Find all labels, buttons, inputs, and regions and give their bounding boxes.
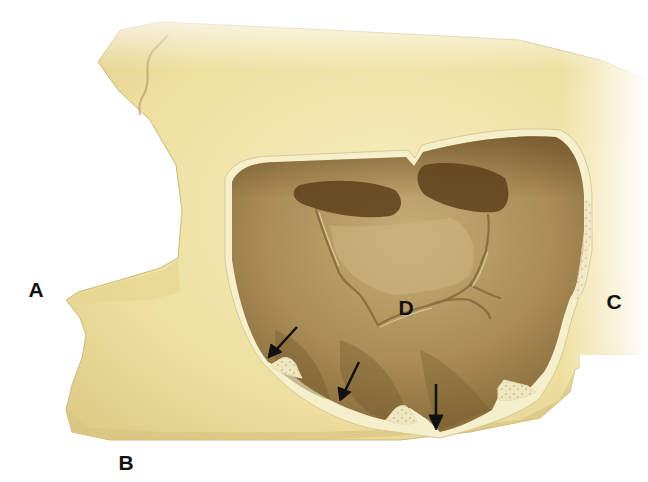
lower-right-bg [580,355,648,482]
maxillary-sinus-illustration: A B C D [0,0,648,482]
label-d: D [398,297,413,318]
anatomy-drawing [0,0,648,482]
label-b: B [118,452,133,473]
label-a: A [28,279,43,300]
label-c: C [606,291,621,312]
top-fade [0,0,648,70]
